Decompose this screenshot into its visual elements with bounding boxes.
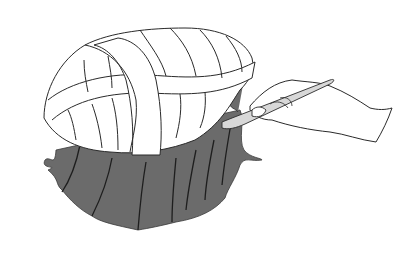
- hand-with-scalpel: [222, 79, 392, 142]
- illustration-canvas: [0, 0, 402, 264]
- illustration-svg: [0, 0, 402, 264]
